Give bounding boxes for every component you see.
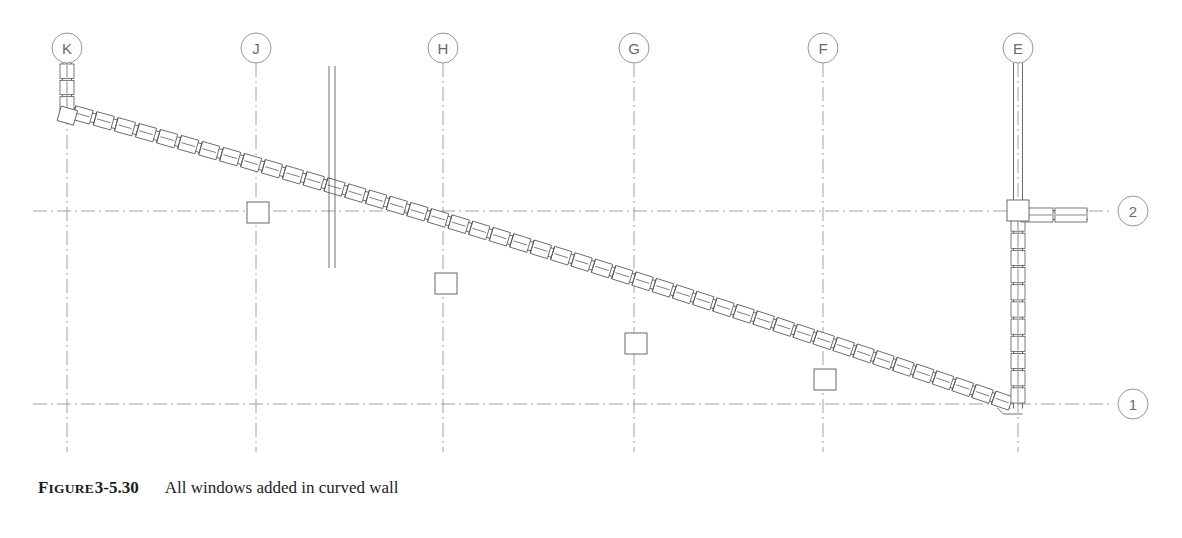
curved-wall-inner-face bbox=[71, 116, 1011, 408]
grid-bubble-label: 1 bbox=[1129, 396, 1137, 413]
window-unit bbox=[591, 259, 612, 278]
grid-bubble-K[interactable]: K bbox=[52, 33, 82, 63]
window-unit bbox=[282, 166, 303, 184]
window-unit bbox=[813, 331, 834, 350]
corner-return-chamfer bbox=[998, 408, 1004, 414]
window-unit bbox=[753, 311, 774, 330]
window-unit bbox=[1055, 208, 1087, 222]
window-unit bbox=[1011, 336, 1025, 351]
window-unit bbox=[241, 153, 262, 171]
window-unit bbox=[1011, 353, 1025, 368]
grid-lines-layer bbox=[33, 63, 1112, 452]
grid-bubble-G[interactable]: G bbox=[619, 33, 649, 63]
window-unit bbox=[1011, 319, 1025, 334]
grid-bubble-label: 2 bbox=[1129, 203, 1137, 220]
window-unit bbox=[1011, 285, 1025, 300]
grid-bubble-label: H bbox=[438, 40, 449, 57]
grid-bubble-F[interactable]: F bbox=[808, 33, 838, 63]
window-unit bbox=[571, 253, 592, 272]
window-unit bbox=[893, 357, 915, 376]
window-unit bbox=[713, 298, 734, 317]
grid-bubble-label: E bbox=[1013, 40, 1023, 57]
window-unit bbox=[612, 265, 633, 284]
window-unit bbox=[952, 377, 974, 396]
window-unit bbox=[1011, 371, 1025, 386]
window-unit bbox=[60, 80, 74, 94]
window-unit bbox=[632, 272, 653, 291]
window-unit bbox=[135, 123, 156, 141]
window-unit bbox=[448, 215, 469, 234]
grid-bubble-label: K bbox=[62, 40, 72, 57]
window-unit bbox=[1011, 302, 1025, 317]
window-unit bbox=[652, 278, 673, 297]
window-unit bbox=[60, 64, 74, 78]
column-F bbox=[814, 369, 836, 390]
window-unit bbox=[157, 129, 178, 147]
column-layer bbox=[247, 200, 1029, 390]
window-unit bbox=[178, 135, 199, 153]
window-unit bbox=[1011, 250, 1025, 265]
window-unit bbox=[220, 147, 241, 165]
window-unit bbox=[972, 384, 994, 403]
window-unit bbox=[345, 184, 366, 203]
window-unit bbox=[261, 159, 282, 177]
figure-caption: FIGURE3-5.30All windows added in curved … bbox=[38, 478, 398, 498]
grid-bubble-layer: KJHGFE21 bbox=[52, 33, 1148, 419]
grid-bubble-label: G bbox=[628, 40, 640, 57]
window-unit bbox=[551, 246, 572, 265]
window-unit bbox=[932, 371, 954, 390]
window-unit bbox=[530, 240, 551, 259]
window-unit bbox=[1011, 388, 1025, 403]
grid-bubble-J[interactable]: J bbox=[241, 33, 271, 63]
window-unit bbox=[991, 391, 1013, 410]
window-unit bbox=[773, 317, 794, 336]
window-unit bbox=[693, 291, 714, 310]
window-unit bbox=[1011, 268, 1025, 283]
window-unit bbox=[93, 112, 114, 130]
grid-bubble-2[interactable]: 2 bbox=[1118, 196, 1148, 226]
grid-bubble-E[interactable]: E bbox=[1003, 33, 1033, 63]
column-H bbox=[435, 273, 457, 294]
figure-page: KJHGFE21 FIGURE3-5.30All windows added i… bbox=[0, 0, 1182, 538]
window-unit bbox=[365, 190, 386, 209]
window-unit bbox=[833, 337, 855, 356]
grid-bubble-label: J bbox=[252, 40, 260, 57]
grid-bubble-label: F bbox=[818, 40, 827, 57]
window-unit bbox=[114, 118, 135, 136]
figure-number: 3-5.30 bbox=[95, 478, 139, 497]
window-unit bbox=[199, 141, 220, 159]
wall-layer bbox=[57, 63, 1088, 414]
window-unit bbox=[303, 172, 324, 191]
window-unit bbox=[407, 202, 428, 221]
window-unit bbox=[733, 304, 754, 323]
figure-label-smallcaps: IGURE bbox=[49, 481, 94, 496]
window-unit bbox=[672, 285, 693, 304]
window-unit bbox=[386, 196, 407, 215]
column-E-2 bbox=[1007, 200, 1029, 221]
figure-label: FIGURE bbox=[38, 478, 94, 497]
grid-bubble-1[interactable]: 1 bbox=[1118, 389, 1148, 419]
window-unit bbox=[853, 344, 875, 363]
window-unit bbox=[1011, 233, 1025, 248]
window-unit bbox=[469, 221, 490, 240]
architectural-floor-plan: KJHGFE21 bbox=[0, 0, 1182, 538]
window-unit bbox=[793, 324, 814, 343]
figure-label-initial: F bbox=[38, 478, 49, 497]
window-unit bbox=[510, 234, 531, 253]
window-unit bbox=[489, 227, 510, 246]
column-G bbox=[625, 333, 647, 354]
window-unit bbox=[324, 178, 345, 197]
window-unit bbox=[873, 351, 895, 370]
figure-caption-text: All windows added in curved wall bbox=[165, 478, 399, 497]
window-unit bbox=[912, 364, 934, 383]
grid-bubble-H[interactable]: H bbox=[428, 33, 458, 63]
column-J bbox=[247, 202, 269, 223]
